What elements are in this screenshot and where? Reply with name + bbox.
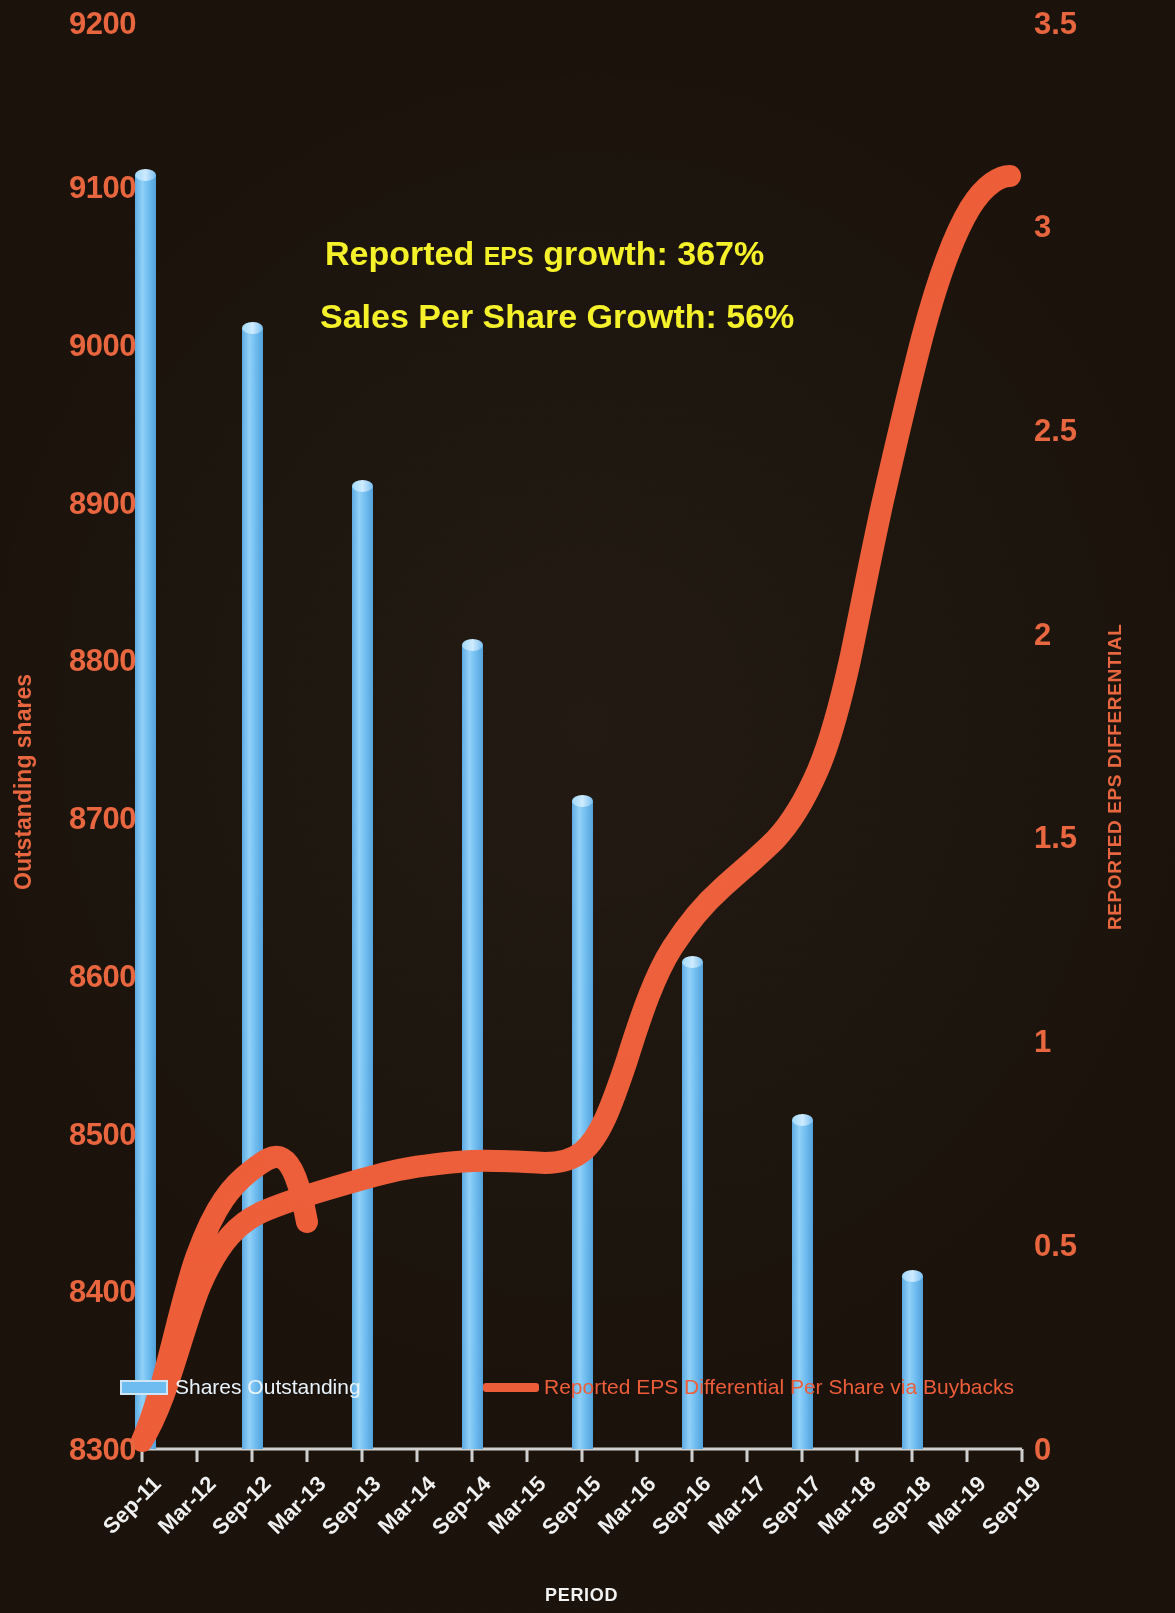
annotation-eps-growth-part1: Reported bbox=[325, 234, 484, 272]
y2-axis-title: REPORTED EPS DIFFERENTIAL bbox=[1104, 624, 1126, 930]
y2-axis-tick-1: 1 bbox=[1034, 1024, 1124, 1060]
legend-item-reported-eps-differential[interactable]: Reported EPS Differential Per Share via … bbox=[483, 1374, 1014, 1399]
y2-axis-tick-3-5: 3.5 bbox=[1034, 6, 1124, 42]
y2-axis-tick-0: 0 bbox=[1034, 1432, 1124, 1468]
y2-axis-tick-0-5: 0.5 bbox=[1034, 1228, 1124, 1264]
y-axis-tick-9200: 9200 bbox=[24, 6, 136, 42]
y-axis-title: Outstanding shares bbox=[10, 674, 37, 890]
y-axis-tick-8900: 8900 bbox=[24, 486, 136, 522]
y-axis-tick-8300: 8300 bbox=[24, 1432, 136, 1468]
annotation-sales-per-share-growth: Sales Per Share Growth: 56% bbox=[320, 297, 794, 336]
bar-sep-12 bbox=[242, 322, 263, 1449]
bar-sep-15 bbox=[572, 795, 593, 1449]
y-axis-tick-8400: 8400 bbox=[24, 1274, 136, 1310]
y2-axis-tick-3: 3 bbox=[1034, 209, 1124, 245]
y2-axis-tick-2-5: 2.5 bbox=[1034, 413, 1124, 449]
y-axis-tick-8700: 8700 bbox=[24, 801, 136, 837]
y-axis-tick-8600: 8600 bbox=[24, 959, 136, 995]
annotation-eps-growth-acronym: EPS bbox=[484, 242, 534, 270]
legend-swatch-line-icon bbox=[483, 1383, 539, 1392]
y-axis-tick-9100: 9100 bbox=[24, 170, 136, 206]
x-axis-title: PERIOD bbox=[545, 1585, 618, 1606]
legend-label-shares-outstanding: Shares Outstanding bbox=[175, 1375, 361, 1398]
legend-swatch-bar-icon bbox=[120, 1380, 168, 1395]
axis-baseline bbox=[142, 1449, 1022, 1462]
legend-label-reported-eps-differential: Reported EPS Differential Per Share via … bbox=[544, 1375, 1014, 1398]
bar-sep-11 bbox=[135, 169, 156, 1449]
annotation-eps-growth-part2: growth: 367% bbox=[534, 234, 764, 272]
y-axis-tick-9000: 9000 bbox=[24, 328, 136, 364]
bar-sep-18 bbox=[902, 1270, 923, 1449]
y-axis-tick-8800: 8800 bbox=[24, 643, 136, 679]
y-axis-tick-8500: 8500 bbox=[24, 1117, 136, 1153]
bar-sep-13 bbox=[352, 480, 373, 1449]
annotation-eps-growth: Reported EPS growth: 367% bbox=[325, 234, 764, 273]
legend-item-shares-outstanding[interactable]: Shares Outstanding bbox=[120, 1374, 361, 1399]
bar-sep-14 bbox=[462, 639, 483, 1449]
